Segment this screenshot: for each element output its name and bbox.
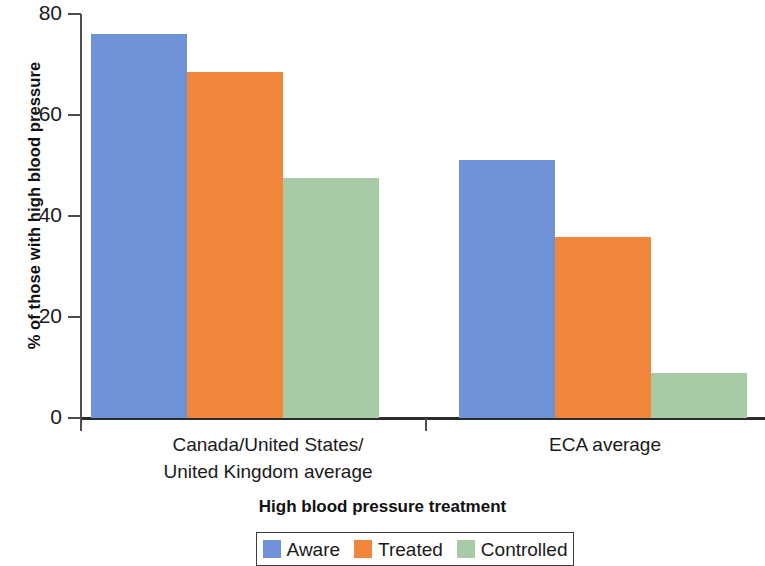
x-axis-title: High blood pressure treatment — [0, 497, 765, 517]
category-label-line2: United Kingdom average — [138, 458, 398, 485]
bar-controlled-group-0 — [283, 178, 379, 418]
bar-treated-group-0 — [187, 72, 283, 418]
legend-swatch-icon — [354, 540, 372, 558]
legend-label: Treated — [378, 540, 443, 559]
bar-treated-group-1 — [555, 237, 651, 418]
y-axis-tick-label: 20 — [2, 305, 62, 326]
x-axis-group-separator-tick — [425, 418, 427, 431]
bar-aware-group-1 — [459, 160, 555, 418]
legend-label: Controlled — [481, 540, 568, 559]
x-axis-origin-tick — [80, 418, 82, 431]
category-label-line1: Canada/United States/ — [138, 431, 398, 458]
y-axis-tick-label: 0 — [2, 406, 62, 427]
category-label-line1: ECA average — [495, 431, 715, 458]
bars-layer — [80, 14, 765, 418]
y-axis-tick-label: 40 — [2, 204, 62, 225]
legend: AwareTreatedControlled — [256, 532, 574, 566]
y-axis-tick-label: 80 — [2, 2, 62, 23]
x-axis-category-label-0: Canada/United States/ United Kingdom ave… — [138, 431, 398, 485]
legend-item-treated[interactable]: Treated — [354, 540, 443, 559]
bar-chart: % of those with high blood pressure 8060… — [0, 0, 765, 566]
legend-swatch-icon — [457, 540, 475, 558]
bar-aware-group-0 — [91, 34, 187, 418]
y-axis-tick-label: 60 — [2, 103, 62, 124]
legend-item-aware[interactable]: Aware — [263, 540, 341, 559]
legend-label: Aware — [287, 540, 341, 559]
legend-item-controlled[interactable]: Controlled — [457, 540, 568, 559]
plot-area — [80, 14, 765, 418]
legend-swatch-icon — [263, 540, 281, 558]
x-axis-category-label-1: ECA average — [495, 431, 715, 458]
bar-controlled-group-1 — [651, 373, 747, 418]
